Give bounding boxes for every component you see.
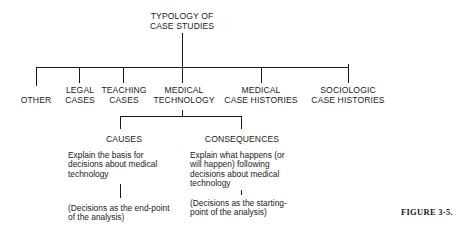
category-medical-technology: MEDICAL TECHNOLOGY: [153, 85, 214, 105]
category-label-line2: CASE HISTORIES: [224, 95, 297, 105]
category-sociologic-case-histories: SOCIOLOGIC CASE HISTORIES: [311, 85, 384, 105]
category-label-line1: SOCIOLOGIC: [311, 85, 384, 95]
category-label-line1: MEDICAL: [224, 85, 297, 95]
connector-drop-sociologic: [348, 64, 349, 83]
connector-subcategory-bar: [120, 116, 242, 117]
connector-drop-medical-case-histories: [261, 67, 262, 83]
category-label: OTHER: [21, 95, 52, 105]
category-label-line2: TECHNOLOGY: [153, 95, 214, 105]
causes-description-line: technology: [68, 170, 157, 179]
connector-category-bar: [36, 67, 349, 68]
category-teaching-cases: TEACHING CASES: [101, 85, 146, 105]
category-other: OTHER: [21, 95, 52, 105]
category-legal-cases: LEGAL CASES: [65, 85, 95, 105]
consequences-description: Explain what happens (or will happen) fo…: [190, 151, 285, 188]
connector-root-vertical: [182, 33, 183, 67]
root-node-label: TYPOLOGY OF CASE STUDIES: [150, 11, 214, 31]
subcategory-causes-label: CAUSES: [106, 134, 142, 144]
connector-drop-causes: [120, 116, 121, 129]
connector-drop-teaching: [123, 67, 124, 83]
root-label-line2: CASE STUDIES: [150, 21, 214, 31]
connector-consequences-note: [241, 190, 242, 195]
connector-causes-note: [120, 184, 121, 198]
category-label-line1: MEDICAL: [153, 85, 214, 95]
root-label-line1: TYPOLOGY OF: [150, 11, 214, 21]
category-label-line2: CASES: [101, 95, 146, 105]
category-label-line1: LEGAL: [65, 85, 95, 95]
consequences-note: (Decisions as the starting- point of the…: [190, 199, 287, 218]
figure-caption: FIGURE 3-5.: [401, 207, 453, 217]
consequences-description-line: technology: [190, 179, 285, 188]
causes-note: (Decisions as the end-point of the analy…: [68, 204, 170, 223]
consequences-note-line: point of the analysis): [190, 208, 287, 217]
connector-drop-other: [36, 67, 37, 86]
connector-drop-medical-technology: [182, 67, 183, 83]
causes-note-line: of the analysis): [68, 213, 170, 222]
category-label-line2: CASE HISTORIES: [311, 95, 384, 105]
category-label-line1: TEACHING: [101, 85, 146, 95]
causes-description: Explain the basis for decisions about me…: [68, 151, 157, 179]
connector-drop-legal: [79, 67, 80, 83]
connector-drop-consequences: [241, 116, 242, 129]
category-label-line2: CASES: [65, 95, 95, 105]
subcategory-consequences-label: CONSEQUENCES: [205, 134, 279, 144]
category-medical-case-histories: MEDICAL CASE HISTORIES: [224, 85, 297, 105]
